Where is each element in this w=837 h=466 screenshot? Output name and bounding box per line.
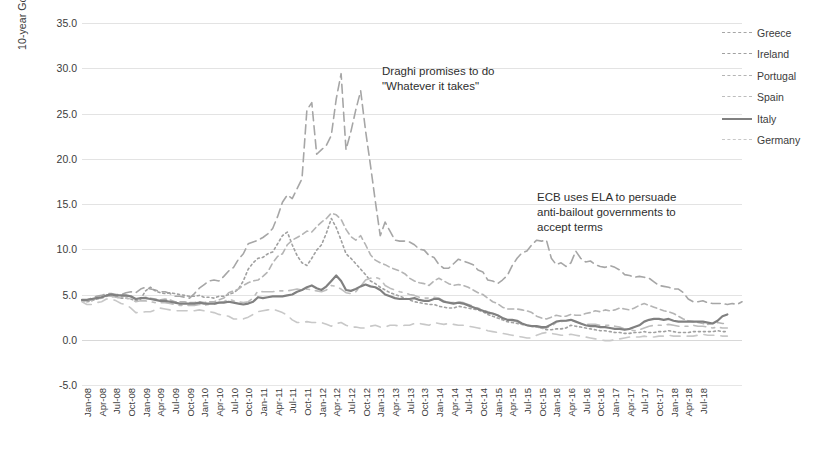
legend-item-portugal[interactable]: Portugal bbox=[722, 65, 834, 87]
x-tick-label: Oct-16 bbox=[595, 388, 606, 417]
legend-swatch-portugal-icon bbox=[722, 71, 752, 81]
legend-item-spain[interactable]: Spain bbox=[722, 87, 834, 109]
legend: GreeceIrelandPortugalSpainItalyGermany bbox=[722, 22, 834, 151]
x-tick-label: Jan-09 bbox=[141, 388, 152, 417]
x-tick-label: Jan-13 bbox=[375, 388, 386, 417]
y-tick-label: 25.0 bbox=[33, 109, 77, 119]
x-tick-label: Oct-12 bbox=[361, 388, 372, 417]
y-tick-label: 30.0 bbox=[33, 63, 77, 73]
legend-swatch-ireland-icon bbox=[722, 49, 752, 59]
legend-label: Spain bbox=[757, 91, 784, 103]
x-tick-label: Apr-13 bbox=[390, 388, 401, 417]
x-tick-label: Jan-14 bbox=[434, 388, 445, 417]
x-tick-label: Jul-16 bbox=[581, 388, 592, 414]
y-tick-label: 10.0 bbox=[33, 244, 77, 254]
x-tick-label: Jan-10 bbox=[199, 388, 210, 417]
x-tick-label: Jan-17 bbox=[610, 388, 621, 417]
legend-label: Greece bbox=[757, 27, 791, 39]
x-tick-label: Apr-15 bbox=[507, 388, 518, 417]
legend-swatch-greece-icon bbox=[722, 28, 752, 38]
x-axis-tick-labels: Jan-08Apr-08Jul-08Oct-08Jan-09Apr-09Jul-… bbox=[82, 388, 742, 444]
x-tick-label: Jul-11 bbox=[287, 388, 298, 413]
y-tick-label: 35.0 bbox=[33, 18, 77, 28]
y-tick-label: -5.0 bbox=[33, 380, 77, 390]
x-tick-label: Oct-10 bbox=[243, 388, 254, 417]
y-tick-label: 20.0 bbox=[33, 154, 77, 164]
bond-yields-chart: 10-year Government Bond Yeilds, Percent … bbox=[0, 0, 837, 466]
x-tick-label: Jan-16 bbox=[551, 388, 562, 417]
x-tick-label: Jul-09 bbox=[170, 388, 181, 414]
series-line-italy bbox=[82, 276, 727, 330]
x-tick-label: Jul-14 bbox=[463, 388, 474, 414]
x-tick-label: Jul-10 bbox=[229, 388, 240, 414]
x-tick-label: Jul-12 bbox=[346, 388, 357, 414]
x-tick-label: Apr-08 bbox=[97, 388, 108, 417]
x-tick-label: Jul-17 bbox=[639, 388, 650, 414]
x-tick-label: Apr-18 bbox=[683, 388, 694, 417]
x-tick-label: Jul-15 bbox=[522, 388, 533, 414]
x-tick-label: Jul-08 bbox=[111, 388, 122, 414]
x-tick-label: Apr-12 bbox=[331, 388, 342, 417]
y-tick-label: 5.0 bbox=[33, 290, 77, 300]
annotation-draghi: Draghi promises to do "Whatever it takes… bbox=[382, 64, 512, 94]
x-tick-label: Apr-16 bbox=[566, 388, 577, 417]
x-tick-label: Apr-10 bbox=[214, 388, 225, 417]
legend-label: Germany bbox=[757, 134, 800, 146]
x-tick-label: Apr-17 bbox=[625, 388, 636, 417]
x-tick-label: Oct-09 bbox=[185, 388, 196, 417]
x-tick-label: Jan-08 bbox=[82, 388, 93, 417]
legend-item-germany[interactable]: Germany bbox=[722, 130, 834, 152]
y-tick-label: 15.0 bbox=[33, 199, 77, 209]
x-tick-label: Jan-12 bbox=[317, 388, 328, 417]
legend-swatch-spain-icon bbox=[722, 92, 752, 102]
x-tick-label: Oct-14 bbox=[478, 388, 489, 417]
axis-bottom-line bbox=[82, 385, 742, 386]
x-tick-label: Jul-13 bbox=[405, 388, 416, 414]
legend-label: Italy bbox=[757, 113, 776, 125]
x-tick-label: Jan-11 bbox=[258, 388, 269, 416]
x-tick-label: Apr-09 bbox=[155, 388, 166, 417]
x-tick-label: Jan-18 bbox=[669, 388, 680, 417]
x-tick-label: Oct-13 bbox=[419, 388, 430, 417]
annotation-ela: ECB uses ELA to persuade anti-bailout go… bbox=[537, 190, 687, 235]
x-tick-label: Oct-11 bbox=[302, 388, 313, 416]
x-tick-label: Jan-15 bbox=[493, 388, 504, 417]
legend-label: Portugal bbox=[757, 70, 796, 82]
x-tick-label: Apr-14 bbox=[449, 388, 460, 417]
x-tick-label: Apr-11 bbox=[273, 388, 284, 416]
y-tick-label: 0.0 bbox=[33, 335, 77, 345]
y-axis-tick-labels: 35.030.025.020.015.010.05.00.0-5.0 bbox=[0, 0, 77, 466]
legend-swatch-italy-icon bbox=[722, 114, 752, 124]
legend-item-ireland[interactable]: Ireland bbox=[722, 44, 834, 66]
legend-label: Ireland bbox=[757, 48, 789, 60]
x-tick-label: Jul-18 bbox=[698, 388, 709, 414]
legend-item-greece[interactable]: Greece bbox=[722, 22, 834, 44]
legend-swatch-germany-icon bbox=[722, 135, 752, 145]
x-tick-label: Oct-17 bbox=[654, 388, 665, 417]
legend-item-italy[interactable]: Italy bbox=[722, 108, 834, 130]
x-tick-label: Oct-15 bbox=[537, 388, 548, 417]
x-tick-label: Oct-08 bbox=[126, 388, 137, 417]
